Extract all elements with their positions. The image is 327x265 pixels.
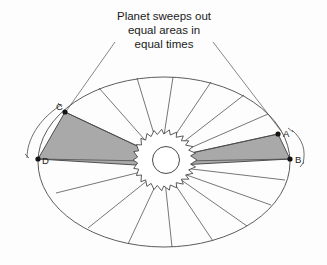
caption-line-1: Planet sweeps out: [117, 10, 212, 22]
spoke-13: [88, 176, 153, 228]
caption-line-2: equal areas in: [128, 24, 200, 36]
point-label-a: A: [283, 128, 290, 139]
kepler-second-law-figure: Planet sweeps out equal areas in equal t…: [0, 0, 327, 265]
point-marker-a: [275, 131, 280, 136]
spoke-12: [128, 180, 158, 244]
caption-line-3: equal times: [135, 38, 194, 50]
point-label-c: C: [56, 101, 63, 112]
shaded-sector-cd: [38, 112, 152, 166]
leader-lines-group: [67, 42, 281, 131]
spoke-10: [172, 180, 213, 241]
spoke-7: [183, 168, 285, 180]
orbit-diagram-svg: Planet sweeps out equal areas in equal t…: [0, 0, 327, 265]
point-label-b: B: [295, 154, 301, 165]
caption-group: Planet sweeps out equal areas in equal t…: [117, 10, 212, 50]
point-marker-c: [62, 109, 67, 114]
point-marker-d: [35, 156, 40, 161]
spoke-14: [56, 170, 149, 193]
point-marker-b: [287, 156, 292, 161]
leader-line-to-c: [67, 42, 115, 110]
spoke-11: [165, 181, 172, 247]
point-label-d: D: [42, 155, 49, 166]
sun-disc: [153, 147, 180, 174]
